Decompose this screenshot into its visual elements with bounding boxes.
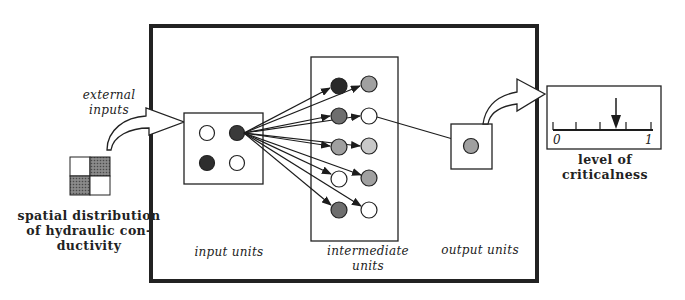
intermediate-unit-4 — [361, 108, 377, 124]
external-inputs-line-2: inputs — [74, 103, 144, 118]
output-units-label: output units — [430, 243, 530, 258]
intermediate-unit-2 — [361, 76, 377, 92]
input-unit-3 — [200, 156, 215, 171]
spatial-line-3: ductivity — [14, 238, 164, 253]
external-inputs-line-1: external — [74, 88, 144, 103]
intermediate-unit-1 — [331, 78, 347, 94]
spatial-line-1: spatial distribution — [14, 208, 164, 223]
spatial-line-2: of hydraulic con- — [14, 223, 164, 238]
gauge-max-label: 1 — [645, 133, 653, 147]
level-line-1: level of — [560, 152, 650, 167]
intermediate-unit-5 — [331, 139, 347, 155]
output-unit — [464, 139, 479, 154]
intermediate-unit-3 — [331, 108, 347, 124]
intermediate-unit-8 — [361, 170, 377, 186]
criticalness-gauge-box — [547, 86, 661, 149]
intermediate-units-box — [311, 57, 398, 241]
intermediate-units-label: intermediate units — [318, 244, 418, 274]
criticalness-label: level of criticalness — [560, 152, 650, 182]
input-unit-2 — [230, 126, 245, 141]
gauge-min-label: 0 — [553, 133, 561, 147]
input-unit-1 — [200, 126, 215, 141]
intermediate-line-1: intermediate — [318, 244, 418, 259]
spatial-distribution-label: spatial distribution of hydraulic con- d… — [14, 208, 164, 253]
hydraulic-conductivity-grid — [70, 157, 110, 195]
intermediate-unit-10 — [361, 202, 377, 218]
input-unit-4 — [230, 156, 245, 171]
input-units-label: input units — [184, 245, 274, 260]
input-units-box — [184, 113, 263, 184]
intermediate-unit-7 — [331, 171, 347, 187]
external-inputs-label: external inputs — [74, 88, 144, 118]
intermediate-unit-6 — [361, 138, 377, 154]
intermediate-unit-9 — [331, 202, 347, 218]
intermediate-line-2: units — [318, 259, 418, 274]
level-line-2: criticalness — [560, 167, 650, 182]
